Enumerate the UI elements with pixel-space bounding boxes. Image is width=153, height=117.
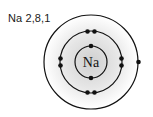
electron-dot bbox=[89, 44, 94, 49]
electron-dot bbox=[58, 63, 63, 68]
electron-dot bbox=[119, 63, 124, 68]
electron-dot bbox=[92, 90, 97, 95]
outer-shell-electrons bbox=[136, 60, 141, 65]
electron-dot bbox=[85, 29, 90, 34]
electron-dot bbox=[136, 60, 141, 65]
bohr-model-diagram: Na bbox=[0, 0, 153, 117]
electron-dot bbox=[89, 76, 94, 81]
electron-dot bbox=[85, 90, 90, 95]
electron-dot bbox=[92, 29, 97, 34]
electron-dot bbox=[58, 56, 63, 61]
electron-dot bbox=[119, 56, 124, 61]
nucleus-symbol: Na bbox=[83, 55, 100, 70]
